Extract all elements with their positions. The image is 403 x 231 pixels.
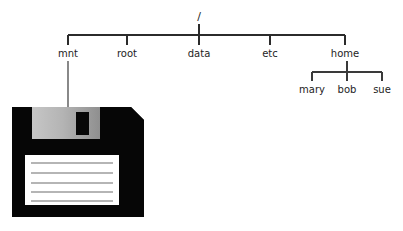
tree-node-home[interactable]: home (331, 48, 359, 59)
tree-node-root-label: / (197, 10, 201, 23)
floppy-disk-illustration (12, 107, 144, 217)
tree-node-sue[interactable]: sue (373, 84, 391, 95)
floppy-shutter-slot (76, 112, 89, 135)
tree-node-etc[interactable]: etc (262, 48, 278, 59)
tree-node-mnt[interactable]: mnt (58, 48, 78, 59)
filesystem-tree-diagram: / mnt root data etc home mary bob sue (0, 0, 403, 231)
tree-node-data[interactable]: data (188, 48, 211, 59)
floppy-shutter (32, 107, 100, 139)
tree-node-bob[interactable]: bob (338, 84, 357, 95)
tree-node-root[interactable]: root (117, 48, 137, 59)
tree-node-mary[interactable]: mary (299, 84, 325, 95)
